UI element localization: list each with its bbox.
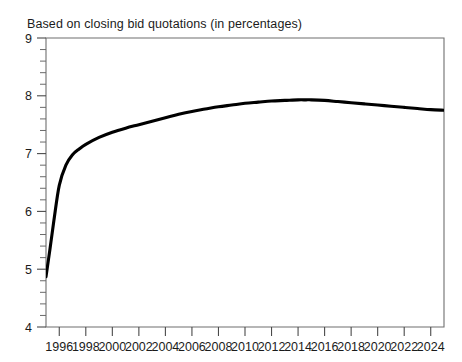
x-tick-label: 2006: [178, 340, 206, 354]
y-tick-label: 5: [25, 263, 32, 277]
x-axis-labels: 1996199820002002200420062008201020122014…: [45, 340, 444, 354]
x-tick-label: 2020: [364, 340, 392, 354]
x-tick-label: 2008: [205, 340, 233, 354]
x-tick-label: 1996: [45, 340, 73, 354]
x-tick-label: 2004: [151, 340, 179, 354]
x-tick-label: 1998: [72, 340, 100, 354]
data-series-line: [46, 100, 444, 277]
data-series-group: [46, 100, 444, 277]
x-axis-ticks: [59, 327, 430, 336]
x-tick-label: 2002: [125, 340, 153, 354]
y-axis-ticks: [37, 38, 46, 327]
plot-frame: [46, 38, 444, 327]
x-tick-label: 2012: [258, 340, 286, 354]
chart-container: Based on closing bid quotations (in perc…: [0, 0, 462, 362]
x-tick-label: 2022: [390, 340, 418, 354]
y-tick-label: 4: [25, 321, 32, 335]
y-tick-label: 6: [25, 205, 32, 219]
y-tick-label: 8: [25, 89, 32, 103]
x-tick-label: 2016: [311, 340, 339, 354]
y-axis-labels: 456789: [25, 32, 32, 335]
x-tick-label: 2014: [284, 340, 312, 354]
line-chart-plot: 456789 199619982000200220042006200820102…: [0, 0, 462, 362]
x-tick-label: 2024: [417, 340, 445, 354]
plot-frame-box: [46, 38, 444, 327]
x-tick-label: 2010: [231, 340, 259, 354]
y-tick-label: 7: [25, 147, 32, 161]
y-tick-label: 9: [25, 32, 32, 46]
x-tick-label: 2018: [337, 340, 365, 354]
x-tick-label: 2000: [98, 340, 126, 354]
